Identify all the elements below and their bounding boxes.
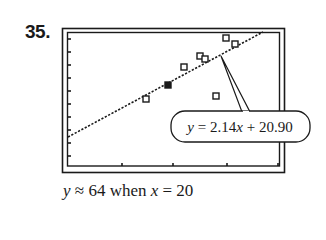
outer-frame (63, 29, 285, 173)
regression-equation: y = 2.14x + 20.90 (185, 119, 292, 135)
data-point (213, 93, 219, 99)
data-point (143, 96, 149, 102)
data-point (232, 41, 238, 47)
y-axis-ticks (68, 39, 71, 156)
data-point (165, 82, 171, 88)
data-point (181, 64, 187, 70)
data-point (202, 56, 208, 62)
data-points (143, 35, 238, 102)
plot-area (68, 33, 280, 167)
data-point (223, 35, 229, 41)
prediction-caption: y ≈ 64 when x = 20 (63, 181, 193, 201)
callout-leader (221, 56, 250, 112)
